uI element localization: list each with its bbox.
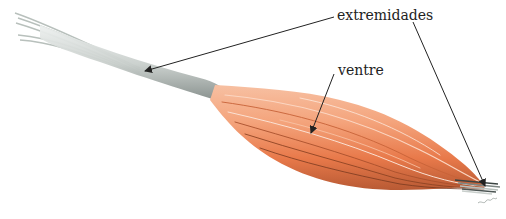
muscle-diagram: extremidades ventre <box>0 0 506 219</box>
left-tendon-shaft <box>40 25 232 103</box>
muscle-belly <box>210 85 484 190</box>
arrow-extremidades-left <box>145 17 334 71</box>
label-extremidades: extremidades <box>337 7 433 23</box>
muscle-illustration <box>0 0 506 219</box>
label-ventre: ventre <box>338 62 384 78</box>
artist-signature <box>478 198 497 203</box>
